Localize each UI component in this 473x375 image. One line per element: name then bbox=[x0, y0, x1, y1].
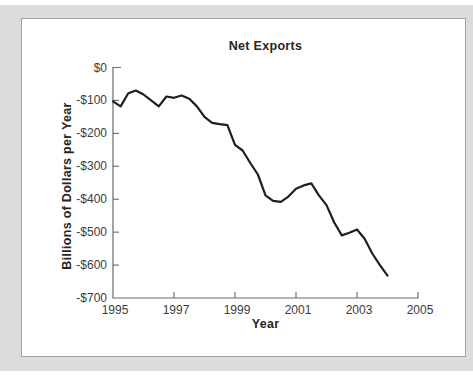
y-tick-label: -$500 bbox=[76, 225, 107, 239]
y-tick-label: -$300 bbox=[76, 159, 107, 173]
x-tick-label: 1997 bbox=[163, 303, 190, 317]
y-tick-label: -$100 bbox=[76, 93, 107, 107]
chart-panel: Net Exports Billions of Dollars per Year… bbox=[21, 18, 466, 357]
x-tick-label: 1999 bbox=[224, 303, 251, 317]
x-tick-label: 2001 bbox=[285, 303, 312, 317]
screenshot-root: Net Exports Billions of Dollars per Year… bbox=[0, 0, 473, 375]
chart-canvas: $0-$100-$200-$300-$400-$500-$600-$700199… bbox=[22, 19, 466, 357]
net-exports-line bbox=[113, 91, 388, 276]
y-tick-label: -$600 bbox=[76, 258, 107, 272]
y-tick-label: $0 bbox=[94, 61, 108, 75]
y-tick-label: -$200 bbox=[76, 126, 107, 140]
axis-frame bbox=[113, 68, 418, 299]
x-tick-label: 2003 bbox=[346, 303, 373, 317]
x-tick-label: 1995 bbox=[102, 303, 129, 317]
x-tick-label: 2005 bbox=[407, 303, 434, 317]
y-tick-label: -$400 bbox=[76, 192, 107, 206]
